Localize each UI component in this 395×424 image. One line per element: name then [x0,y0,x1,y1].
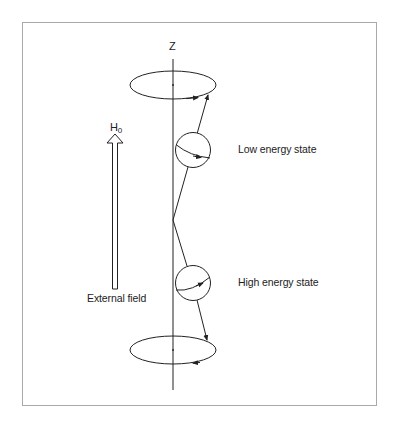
high-energy-spin [173,220,211,340]
external-field-arrow-icon [107,134,123,289]
field-symbol-label: H0 [110,121,122,135]
high-energy-state-label: High energy state [238,276,319,288]
z-axis-label: Z [169,40,176,52]
low-energy-spin [173,95,211,220]
low-energy-state-label: Low energy state [238,143,316,155]
field-symbol-subscript: 0 [118,126,122,135]
field-symbol: H [110,121,118,133]
external-field-caption: External field [87,292,146,304]
spin-precession-diagram [0,0,395,424]
